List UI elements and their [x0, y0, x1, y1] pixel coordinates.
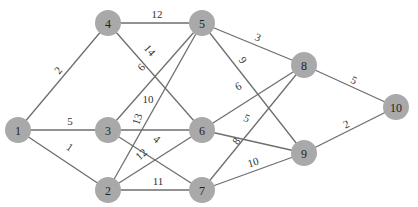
edge-9-10 [304, 107, 396, 153]
edge-weight-label: 4 [151, 133, 163, 146]
edges-layer [18, 23, 396, 190]
edge-weight-label: 5 [67, 115, 73, 127]
nodes-layer: 12345678910 [5, 10, 409, 203]
edge-weight-label: 5 [242, 111, 252, 124]
node-9: 9 [291, 140, 317, 166]
node-label: 5 [199, 17, 205, 31]
node-label: 8 [301, 59, 307, 73]
node-6: 6 [189, 117, 215, 143]
edge-weight-label: 9 [237, 54, 250, 66]
node-label: 3 [105, 124, 111, 138]
node-label: 4 [105, 17, 111, 31]
edge-weight-label: 8 [230, 135, 243, 147]
node-5: 5 [189, 10, 215, 36]
edge-weight-label: 1 [64, 140, 75, 153]
graph-diagram: 25112146104131211396581052 12345678910 [0, 0, 418, 207]
edge-1-2 [18, 130, 108, 190]
edge-weight-label: 10 [246, 154, 261, 169]
edge-weight-label: 12 [152, 8, 163, 20]
node-label: 2 [105, 184, 111, 198]
edge-weight-label: 12 [133, 146, 149, 162]
edge-weight-label: 5 [349, 73, 360, 86]
node-1: 1 [5, 117, 31, 143]
edge-6-8 [202, 65, 304, 130]
node-label: 6 [199, 124, 205, 138]
edge-8-10 [304, 65, 396, 107]
node-2: 2 [95, 177, 121, 203]
edge-weight-label: 10 [143, 93, 155, 105]
edge-weight-label: 13 [130, 111, 145, 126]
edge-weight-label: 6 [233, 79, 244, 92]
edge-weight-label: 2 [341, 117, 351, 130]
node-7: 7 [189, 177, 215, 203]
edge-weight-label: 2 [52, 64, 65, 76]
node-label: 1 [15, 124, 21, 138]
edge-weight-label: 3 [253, 30, 263, 43]
edge-weight-label: 11 [153, 175, 164, 187]
node-label: 7 [199, 184, 205, 198]
node-label: 9 [301, 147, 307, 161]
node-label: 10 [390, 101, 402, 115]
edge-5-8 [202, 23, 304, 65]
node-8: 8 [291, 52, 317, 78]
edge-weight-label: 14 [142, 42, 159, 59]
node-3: 3 [95, 117, 121, 143]
node-4: 4 [95, 10, 121, 36]
edge-1-4 [18, 23, 108, 130]
node-10: 10 [383, 94, 409, 120]
